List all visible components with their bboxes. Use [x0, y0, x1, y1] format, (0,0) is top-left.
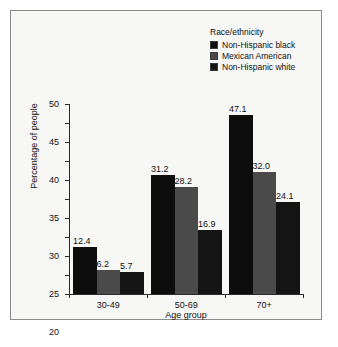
y-axis-tick-mark: 35 [65, 161, 69, 162]
x-axis-category-label: 30-49 [97, 300, 120, 310]
y-axis-tick-mark: 20 [65, 218, 69, 219]
legend-entry[interactable]: Non-Hispanic black [210, 39, 335, 50]
y-axis-tick-mark: 15 [65, 237, 69, 238]
y-axis-tick-label: 50 [49, 99, 59, 109]
y-axis-tick-mark: 50 [65, 104, 69, 105]
x-axis-tick-mark [69, 294, 70, 298]
legend-swatch-icon [210, 63, 218, 71]
x-axis-tick-mark [147, 294, 148, 298]
bar-value-label: 28.2 [175, 176, 193, 186]
legend-entry[interactable]: Mexican American [210, 50, 335, 61]
chart-figure: Race/ethnicity Non-Hispanic blackMexican… [10, 10, 322, 320]
x-axis-tick-mark [225, 294, 226, 298]
legend-swatch-icon [210, 41, 218, 49]
bar[interactable]: 47.1 [229, 115, 253, 294]
legend-entry-list: Non-Hispanic blackMexican AmericanNon-Hi… [210, 39, 335, 72]
bar-value-label: 6.2 [97, 259, 110, 269]
x-axis-tick-mark [303, 294, 304, 298]
legend-title: Race/ethnicity [210, 27, 335, 37]
x-axis-category-label: 70+ [257, 300, 272, 310]
y-axis-tick-mark: 10 [65, 256, 69, 257]
y-axis-tick-mark: 5 [65, 275, 69, 276]
bar-value-label: 24.1 [276, 191, 294, 201]
y-axis-tick-label: 45 [49, 137, 59, 147]
bar-value-label: 47.1 [229, 104, 247, 114]
bar-value-label: 31.2 [151, 164, 169, 174]
y-axis-tick-label: 35 [49, 213, 59, 223]
bar-value-label: 12.4 [73, 236, 91, 246]
x-axis-category-label: 50-69 [175, 300, 198, 310]
bar[interactable]: 32.0 [253, 172, 277, 294]
legend-entry-label: Mexican American [222, 51, 291, 61]
y-axis-tick-label: 20 [49, 327, 59, 337]
bar[interactable]: 24.1 [276, 202, 300, 294]
y-axis-tick-mark: 30 [65, 180, 69, 181]
y-axis-tick-label: 30 [49, 251, 59, 261]
legend-swatch-icon [210, 52, 218, 60]
y-axis-tick-label: 40 [49, 175, 59, 185]
legend-entry-label: Non-Hispanic white [222, 62, 295, 72]
x-axis-line [69, 294, 303, 295]
plot-area: 05101520253035404550 12.46.25.731.228.21… [69, 104, 303, 294]
bar[interactable]: 5.7 [120, 272, 144, 294]
bar[interactable]: 16.9 [198, 230, 222, 294]
y-axis-tick-label: 25 [49, 289, 59, 299]
y-axis-line [69, 104, 70, 294]
chart-legend: Race/ethnicity Non-Hispanic blackMexican… [210, 27, 335, 72]
y-axis-title: Percentage of people [29, 61, 39, 231]
bar-value-label: 32.0 [253, 161, 271, 171]
bar[interactable]: 6.2 [97, 270, 121, 294]
bar-value-label: 16.9 [198, 219, 216, 229]
y-axis-tick-mark: 40 [65, 142, 69, 143]
y-axis-tick-mark: 45 [65, 123, 69, 124]
bar[interactable]: 28.2 [175, 187, 199, 294]
legend-entry-label: Non-Hispanic black [222, 40, 295, 50]
y-axis-tick-mark: 25 [65, 199, 69, 200]
legend-entry[interactable]: Non-Hispanic white [210, 61, 335, 72]
bar[interactable]: 12.4 [73, 247, 97, 294]
bar-value-label: 5.7 [120, 261, 133, 271]
x-axis-title: Age group [69, 310, 303, 320]
bar[interactable]: 31.2 [151, 175, 175, 294]
